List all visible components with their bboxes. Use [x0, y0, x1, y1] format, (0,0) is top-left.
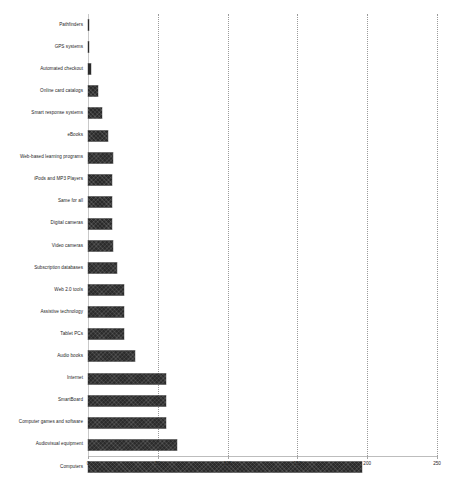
plot-area: [88, 14, 437, 456]
bar: [88, 174, 112, 185]
bar-row: [88, 257, 437, 279]
bar-row: [88, 191, 437, 213]
category-axis-labels: PathfindersGPS systemsAutomated checkout…: [0, 14, 86, 456]
bar-row: [88, 102, 437, 124]
category-label: Assistive technology: [40, 310, 83, 315]
category-label-row: Online card catalogs: [0, 80, 86, 102]
category-label: Computers: [60, 465, 83, 470]
bar: [88, 285, 124, 296]
bar: [88, 42, 89, 53]
category-label-row: Tablet PCs: [0, 323, 86, 345]
category-label: Pathfinders: [59, 23, 83, 28]
bar: [88, 395, 166, 406]
bar-row: [88, 14, 437, 36]
category-label-row: Same for all: [0, 191, 86, 213]
category-label: Audio books: [57, 354, 83, 359]
category-label: iPods and MP3 Players: [34, 177, 83, 182]
category-label-row: Web 2.0 tools: [0, 279, 86, 301]
category-label-row: iPods and MP3 Players: [0, 169, 86, 191]
bar: [88, 307, 124, 318]
x-tick-label-50: 50: [155, 461, 160, 466]
bar-row: [88, 456, 437, 478]
category-label: Subscription databases: [34, 266, 83, 271]
bar-row: [88, 434, 437, 456]
bar: [88, 152, 113, 163]
category-label: Audiovisual equipment: [36, 442, 83, 447]
category-label: SmartBoard: [58, 398, 83, 403]
x-tick-150: [297, 456, 298, 459]
category-label: Same for all: [58, 199, 83, 204]
x-tick-label-150: 150: [294, 461, 302, 466]
x-tick-label-0: 0: [87, 461, 90, 466]
bar-row: [88, 58, 437, 80]
category-label: Tablet PCs: [60, 332, 83, 337]
bar-row: [88, 124, 437, 146]
category-label-row: Internet: [0, 368, 86, 390]
category-label-row: Audio books: [0, 345, 86, 367]
gridline-250: [437, 14, 438, 456]
category-label: Computer games and software: [19, 420, 83, 425]
x-tick-0: [88, 456, 89, 459]
bar: [88, 329, 124, 340]
category-label-row: GPS systems: [0, 36, 86, 58]
category-label: eBooks: [67, 133, 83, 138]
bar: [88, 240, 113, 251]
category-label-row: Assistive technology: [0, 301, 86, 323]
bar-row: [88, 169, 437, 191]
bar-row: [88, 323, 437, 345]
bar-row: [88, 147, 437, 169]
bar: [88, 218, 112, 229]
x-tick-label-200: 200: [363, 461, 371, 466]
x-tick-label-100: 100: [224, 461, 232, 466]
bar: [88, 351, 135, 362]
category-label: Video cameras: [52, 244, 83, 249]
bar-row: [88, 279, 437, 301]
category-label-row: Automated checkout: [0, 58, 86, 80]
bar: [88, 86, 98, 97]
category-label-row: SmartBoard: [0, 390, 86, 412]
category-label-row: Smart response systems: [0, 102, 86, 124]
category-label-row: Computer games and software: [0, 412, 86, 434]
bar-row: [88, 80, 437, 102]
x-axis-line: [88, 456, 437, 457]
bar: [88, 196, 112, 207]
bar-row: [88, 412, 437, 434]
bar: [88, 130, 108, 141]
bar-row: [88, 235, 437, 257]
category-label: Internet: [67, 376, 83, 381]
bar-row: [88, 368, 437, 390]
bar: [88, 417, 166, 428]
category-label-row: Audiovisual equipment: [0, 434, 86, 456]
category-label-row: Computers: [0, 456, 86, 478]
category-label-row: Subscription databases: [0, 257, 86, 279]
category-label: Automated checkout: [40, 67, 83, 72]
category-label: Smart response systems: [31, 111, 83, 116]
bar: [88, 64, 91, 75]
bar: [88, 263, 117, 274]
bar: [88, 20, 89, 31]
category-label: Web-based learning programs: [20, 155, 83, 160]
category-label: Web 2.0 tools: [54, 288, 83, 293]
category-label: Digital cameras: [51, 221, 83, 226]
x-tick-250: [437, 456, 438, 459]
bar-rows: [88, 14, 437, 456]
category-label: GPS systems: [55, 45, 83, 50]
category-label-row: Digital cameras: [0, 213, 86, 235]
category-label-row: Web-based learning programs: [0, 147, 86, 169]
category-label-row: eBooks: [0, 124, 86, 146]
category-label: Online card catalogs: [40, 89, 83, 94]
bar: [88, 439, 177, 450]
bar-row: [88, 36, 437, 58]
category-label-row: Video cameras: [0, 235, 86, 257]
bar: [88, 108, 102, 119]
x-tick-label-250: 250: [433, 461, 441, 466]
bar-row: [88, 345, 437, 367]
x-tick-50: [158, 456, 159, 459]
bar-row: [88, 213, 437, 235]
bar-row: [88, 390, 437, 412]
x-tick-100: [228, 456, 229, 459]
bar-chart: PathfindersGPS systemsAutomated checkout…: [0, 0, 459, 484]
x-tick-200: [367, 456, 368, 459]
bar: [88, 373, 166, 384]
category-label-row: Pathfinders: [0, 14, 86, 36]
